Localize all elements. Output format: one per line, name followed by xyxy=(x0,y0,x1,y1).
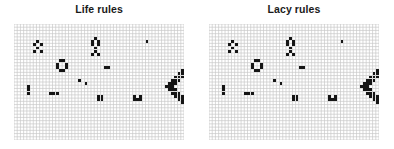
live-cell xyxy=(296,98,299,101)
live-cell xyxy=(27,92,30,95)
live-cell xyxy=(62,69,65,72)
live-cell xyxy=(33,50,36,53)
live-cell xyxy=(65,66,68,69)
live-cell xyxy=(286,53,289,56)
live-cell xyxy=(369,82,372,85)
live-cell xyxy=(56,92,59,95)
panel-title-lacy-rules: Lacy rules xyxy=(199,3,389,16)
live-cell xyxy=(107,66,110,69)
grid-life-rules xyxy=(14,24,184,140)
live-cell xyxy=(97,53,100,56)
live-cell xyxy=(302,66,305,69)
panel-lacy-rules: Lacy rules xyxy=(199,0,389,149)
live-cell xyxy=(235,50,238,53)
live-cell xyxy=(85,82,88,85)
live-cells-lacy-rules xyxy=(209,24,379,140)
live-cell xyxy=(292,43,295,46)
live-cell xyxy=(273,79,276,82)
panel-life-rules: Life rules xyxy=(4,0,194,149)
live-cell xyxy=(376,76,379,79)
live-cell xyxy=(40,43,43,46)
live-cell xyxy=(101,98,104,101)
live-cell xyxy=(139,98,142,101)
live-cell xyxy=(222,92,225,95)
live-cell xyxy=(178,79,181,82)
live-cell xyxy=(235,43,238,46)
live-cell xyxy=(181,76,184,79)
live-cell xyxy=(181,101,184,104)
live-cell xyxy=(78,79,81,82)
figure-root: Life rules Lacy rules xyxy=(0,0,394,149)
live-cell xyxy=(40,50,43,53)
live-cell xyxy=(280,82,283,85)
live-cell xyxy=(174,82,177,85)
live-cells-life-rules xyxy=(14,24,184,140)
live-cell xyxy=(251,92,254,95)
live-cell xyxy=(97,43,100,46)
grid-lacy-rules xyxy=(209,24,379,140)
live-cell xyxy=(292,53,295,56)
live-cell xyxy=(91,53,94,56)
live-cell xyxy=(146,40,149,43)
live-cell xyxy=(260,66,263,69)
live-cell xyxy=(334,98,337,101)
live-cell xyxy=(373,79,376,82)
live-cell xyxy=(341,40,344,43)
live-cell xyxy=(257,69,260,72)
panel-title-life-rules: Life rules xyxy=(4,3,194,16)
live-cell xyxy=(376,101,379,104)
live-cell xyxy=(228,50,231,53)
